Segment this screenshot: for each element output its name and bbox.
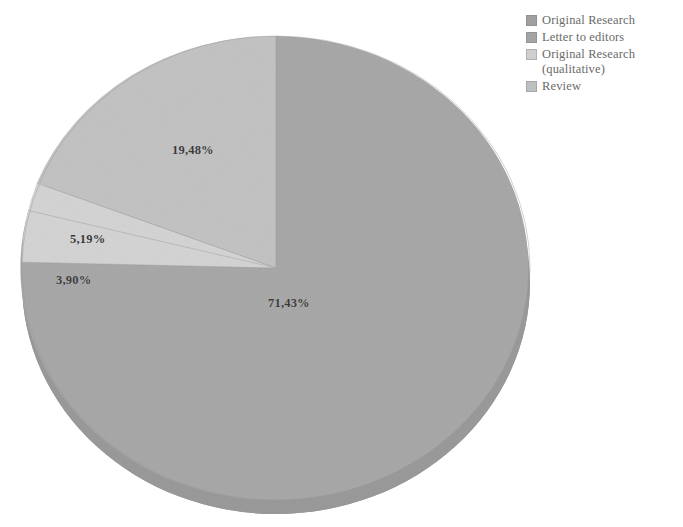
- legend-item-original-research: Original Research: [526, 13, 683, 28]
- legend-swatch-icon: [526, 81, 537, 92]
- pie-chart-figure: 71,43% 3,90% 5,19% 19,48% Original Resea…: [0, 0, 683, 527]
- legend-label: Original Research (qualitative): [542, 47, 635, 77]
- legend-swatch-icon: [526, 49, 537, 60]
- pie-graphic: [0, 0, 560, 527]
- pie-plot-area: 71,43% 3,90% 5,19% 19,48%: [0, 0, 560, 527]
- legend-swatch-icon: [526, 32, 537, 43]
- legend-label-line-2: (qualitative): [542, 62, 635, 77]
- legend-label-line-1: Original Research: [542, 47, 635, 61]
- legend-item-review: Review: [526, 79, 683, 94]
- slice-label-original-research: 71,43%: [268, 296, 310, 311]
- legend-item-original-research-qualitative: Original Research (qualitative): [526, 47, 683, 77]
- chart-legend: Original Research Letter to editors Orig…: [526, 13, 683, 96]
- legend-label: Review: [542, 79, 581, 94]
- slice-label-review: 5,19%: [70, 232, 105, 247]
- legend-item-letter-to-editors: Letter to editors: [526, 30, 683, 45]
- legend-swatch-icon: [526, 15, 537, 26]
- slice-label-original-research-qualitative: 3,90%: [56, 273, 91, 288]
- slice-label-letter-to-editors: 19,48%: [172, 143, 214, 158]
- legend-label: Letter to editors: [542, 30, 624, 45]
- legend-label: Original Research: [542, 13, 635, 28]
